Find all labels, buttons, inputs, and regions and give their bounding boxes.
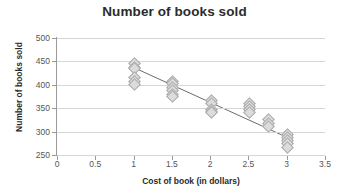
chart-title: Number of books sold: [0, 4, 349, 19]
y-axis-tick-mark: [52, 108, 56, 109]
y-axis-tick-label: 400: [24, 81, 50, 90]
gridline-horizontal: [57, 38, 325, 39]
y-axis-tick-mark: [52, 38, 56, 39]
y-axis-tick-label: 250: [24, 151, 50, 160]
y-axis-tick-label: 450: [24, 57, 50, 66]
y-axis-tick-label: 350: [24, 104, 50, 113]
plot-area: [57, 38, 325, 155]
gridline-horizontal: [57, 108, 325, 109]
y-axis-tick-mark: [52, 132, 56, 133]
gridline-horizontal: [57, 155, 325, 156]
x-axis-tick-label: 1.5: [157, 160, 187, 169]
scatter-chart: Number of books sold Number of books sol…: [0, 0, 349, 193]
gridline-horizontal: [57, 61, 325, 62]
x-axis-tick-label: 0.5: [80, 160, 110, 169]
y-axis-tick-label: 500: [24, 34, 50, 43]
x-axis-tick-label: 2.5: [233, 160, 263, 169]
x-axis-tick-label: 2: [195, 160, 225, 169]
y-axis-tick-mark: [52, 85, 56, 86]
y-axis-tick-mark: [52, 155, 56, 156]
y-axis-tick-mark: [52, 61, 56, 62]
x-axis-tick-label: 1: [119, 160, 149, 169]
x-axis-tick-label: 0: [42, 160, 72, 169]
gridline-horizontal: [57, 85, 325, 86]
x-axis-tick-label: 3: [272, 160, 302, 169]
y-axis-tick-label: 300: [24, 128, 50, 137]
x-axis-title: Cost of book (in dollars): [57, 176, 325, 186]
x-axis-tick-label: 3.5: [310, 160, 340, 169]
